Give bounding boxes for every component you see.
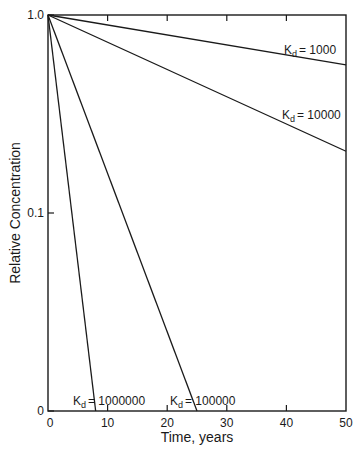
series-line — [48, 15, 346, 65]
concentration-chart: 01020304050 1.00.10 Kd= 1000Kd= 10000Kd=… — [0, 0, 364, 461]
series-labels: Kd= 1000Kd= 10000Kd= 100000Kd= 1000000 — [73, 43, 341, 410]
x-tick-label: 0 — [47, 416, 54, 430]
plot-frame — [48, 15, 346, 411]
y-axis-title: Relative Concentration — [7, 142, 23, 284]
y-axis-ticks: 1.00.10 — [27, 8, 54, 418]
y-tick-label: 0.1 — [27, 206, 44, 220]
series-label: Kd= 1000 — [284, 43, 336, 59]
x-tick-label: 20 — [161, 416, 175, 430]
series-label: Kd= 10000 — [282, 108, 341, 124]
x-tick-label: 30 — [220, 416, 234, 430]
y-tick-label: 1.0 — [27, 8, 44, 22]
series-label: Kd= 100000 — [170, 394, 236, 410]
series-label: Kd= 1000000 — [73, 394, 145, 410]
x-tick-label: 40 — [280, 416, 294, 430]
series-line — [48, 15, 96, 411]
series-lines — [48, 15, 346, 411]
series-line — [48, 15, 346, 151]
series-line — [48, 15, 197, 411]
x-tick-label: 50 — [339, 416, 353, 430]
x-axis-title: Time, years — [161, 429, 234, 445]
y-tick-label: 0 — [37, 404, 44, 418]
x-tick-label: 10 — [101, 416, 115, 430]
x-axis-ticks: 01020304050 — [47, 15, 353, 430]
